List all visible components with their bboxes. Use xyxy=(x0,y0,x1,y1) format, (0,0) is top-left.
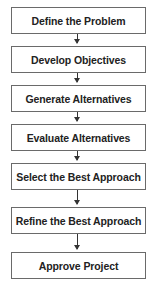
arrow-down-icon xyxy=(77,151,78,160)
step-generate-alternatives: Generate Alternatives xyxy=(11,85,146,112)
step-approve-project: Approve Project xyxy=(11,252,146,279)
arrow-down-icon xyxy=(77,112,78,121)
step-develop-objectives: Develop Objectives xyxy=(11,46,146,73)
step-select-best-approach: Select the Best Approach xyxy=(11,163,146,190)
step-refine-best-approach: Refine the Best Approach xyxy=(11,207,146,234)
arrow-down-icon xyxy=(77,190,78,204)
arrow-down-icon xyxy=(77,34,78,43)
arrow-down-icon xyxy=(77,234,78,249)
step-define-problem: Define the Problem xyxy=(11,7,146,34)
step-evaluate-alternatives: Evaluate Alternatives xyxy=(11,124,146,151)
arrow-down-icon xyxy=(77,73,78,82)
